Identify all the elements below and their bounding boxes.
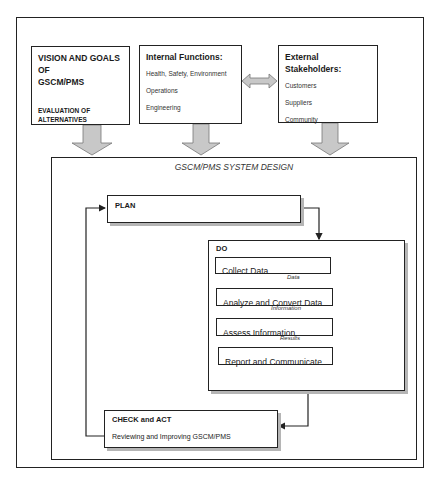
- report-communicate-label: Report and Communicate: [225, 357, 322, 367]
- do-label: DO: [216, 244, 227, 253]
- external-item-customers: Customers: [285, 82, 371, 89]
- internal-functions-box: Internal Functions: Health, Safety, Envi…: [139, 45, 242, 124]
- system-design-title: GSCM/PMS SYSTEM DESIGN: [51, 162, 417, 172]
- plan-label: PLAN: [115, 201, 293, 210]
- external-stakeholders-box: External Stakeholders: Customers Supplie…: [278, 45, 378, 123]
- check-act-box: CHECK and ACT Reviewing and Improving GS…: [104, 410, 278, 448]
- flow-label-information: Information: [271, 305, 301, 311]
- external-item-community: Community: [285, 116, 371, 123]
- flow-label-data: Data: [287, 274, 300, 280]
- down-arrow-internal: [182, 124, 220, 155]
- evaluation-line1: EVALUATION OF: [38, 106, 123, 115]
- evaluation-line2: ALTERNATIVES: [38, 115, 123, 124]
- collect-data-label: Collect Data: [222, 266, 268, 276]
- internal-title: Internal Functions:: [146, 51, 235, 63]
- do-step-analyze-convert: Analyze and Convert Data: [216, 288, 333, 306]
- down-arrow-external: [311, 123, 349, 155]
- down-arrow-vision: [72, 125, 112, 155]
- check-act-label: CHECK and ACT: [112, 415, 270, 424]
- internal-item-engineering: Engineering: [146, 104, 235, 111]
- internal-item-hse: Health, Safety, Environment: [146, 70, 235, 77]
- vision-goals-box: VISION AND GOALS OF GSCM/PMS EVALUATION …: [31, 46, 130, 125]
- plan-box: PLAN: [107, 195, 301, 223]
- bidirectional-arrow: [242, 74, 277, 88]
- vision-title-line1: VISION AND GOALS OF: [38, 52, 123, 76]
- external-item-suppliers: Suppliers: [285, 99, 371, 106]
- flow-label-results: Results: [280, 335, 300, 341]
- do-step-collect-data: Collect Data: [215, 257, 331, 274]
- do-step-report-communicate: Report and Communicate: [218, 347, 333, 365]
- check-act-description: Reviewing and Improving GSCM/PMS: [112, 433, 270, 440]
- vision-title-line2: GSCM/PMS: [38, 76, 123, 88]
- internal-item-operations: Operations: [146, 87, 235, 94]
- external-title: External Stakeholders:: [285, 51, 371, 75]
- do-step-assess-information: Assess Information: [216, 318, 333, 336]
